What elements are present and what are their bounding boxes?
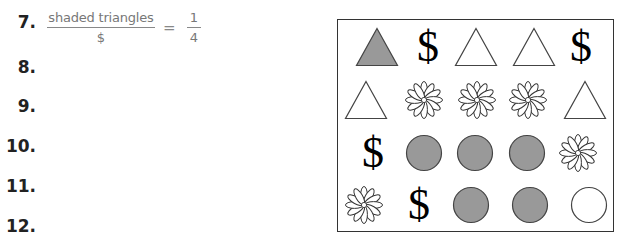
flower-icon bbox=[399, 75, 449, 125]
dollar-sign-text: $ bbox=[570, 25, 592, 69]
answer-numerator: 1 bbox=[187, 10, 201, 28]
shaded-triangle-icon bbox=[352, 22, 402, 72]
flower-icon bbox=[503, 75, 553, 125]
equals-sign: = bbox=[163, 19, 176, 37]
shaded-circle-icon bbox=[502, 128, 552, 178]
ratio-fraction: shaded triangles $ bbox=[47, 10, 155, 45]
question-number-11: 11. bbox=[0, 176, 36, 196]
shaded-circle-icon bbox=[399, 128, 449, 178]
triangle-icon bbox=[451, 22, 501, 72]
dollar-sign-icon: $ bbox=[556, 22, 606, 72]
answer-fraction: 1 4 bbox=[187, 10, 201, 45]
circle-icon bbox=[564, 180, 614, 230]
dollar-sign-text: $ bbox=[362, 131, 384, 175]
answer-denominator: 4 bbox=[187, 28, 201, 45]
triangle-icon bbox=[341, 75, 391, 125]
ratio-denominator: $ bbox=[47, 28, 155, 45]
flower-icon bbox=[339, 180, 389, 230]
question-number-12: 12. bbox=[0, 216, 36, 236]
dollar-sign-icon: $ bbox=[348, 128, 398, 178]
flower-icon bbox=[452, 75, 502, 125]
shaded-circle-icon bbox=[450, 128, 500, 178]
question-number-9: 9. bbox=[0, 96, 36, 116]
dollar-sign-text: $ bbox=[408, 183, 430, 227]
triangle-icon bbox=[560, 75, 610, 125]
dollar-sign-icon: $ bbox=[394, 180, 444, 230]
question-number-10: 10. bbox=[0, 136, 36, 156]
triangle-icon bbox=[509, 22, 559, 72]
dollar-sign-text: $ bbox=[417, 25, 439, 69]
ratio-numerator: shaded triangles bbox=[47, 10, 155, 28]
flower-icon bbox=[553, 128, 603, 178]
shaded-circle-icon bbox=[446, 180, 496, 230]
question-number-7: 7. bbox=[0, 12, 36, 32]
question-number-8: 8. bbox=[0, 57, 36, 77]
dollar-sign-icon: $ bbox=[403, 22, 453, 72]
shaded-circle-icon bbox=[505, 180, 555, 230]
